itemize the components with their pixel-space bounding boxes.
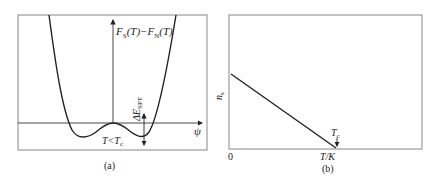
ns-label: ns [213, 92, 226, 100]
origin-label: 0 [228, 151, 233, 162]
panel-a: FS(T)−FN(T) ψ T<Tc ΔESPT (a) [18, 15, 207, 172]
x-axis-label-psi: ψ [194, 125, 201, 137]
x-axis-label-t: T/K [320, 151, 336, 162]
delta-e-label: ΔESPT [131, 96, 144, 122]
panel-b-frame [229, 15, 422, 149]
condition-label: T<Tc [102, 135, 123, 148]
panel-a-frame [18, 15, 207, 150]
panel-b-caption: (b) [322, 163, 334, 175]
ns-vs-t-line [231, 74, 336, 148]
figure: FS(T)−FN(T) ψ T<Tc ΔESPT (a) ns 0 T/K Tc… [0, 0, 435, 188]
panel-a-caption: (a) [104, 160, 115, 172]
y-axis-label: FS(T)−FN(T) [115, 25, 173, 40]
panel-b: ns 0 T/K Tc (b) [213, 15, 422, 175]
tc-label: Tc [331, 127, 340, 140]
